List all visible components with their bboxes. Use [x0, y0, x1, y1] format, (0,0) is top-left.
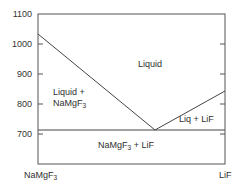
- y-ticks-right: [220, 44, 225, 134]
- liquidus-left-line: [38, 34, 155, 130]
- y-tick-800: 800: [2, 99, 32, 109]
- liquidus-right-line: [155, 91, 225, 130]
- y-tick-1100: 1100: [2, 9, 32, 19]
- region-liquid: Liquid: [138, 59, 162, 69]
- region-liquid-namgf3-line2: NaMgF3: [53, 98, 86, 109]
- x-label-lif: LiF: [219, 170, 232, 180]
- x-label-namgf3: NaMgF3: [24, 170, 57, 181]
- y-tick-700: 700: [2, 129, 32, 139]
- region-liq-lif: Liq + LiF: [179, 114, 214, 124]
- region-solid: NaMgF3 + LiF: [98, 140, 154, 151]
- diagram-canvas: [0, 0, 245, 187]
- y-tick-1000: 1000: [2, 39, 32, 49]
- region-liquid-namgf3-line1: Liquid +: [53, 87, 85, 97]
- y-ticks-left: [38, 44, 43, 134]
- y-tick-900: 900: [2, 69, 32, 79]
- phase-diagram: 1100 1000 900 800 700 NaMgF3 LiF Liquid …: [0, 0, 245, 187]
